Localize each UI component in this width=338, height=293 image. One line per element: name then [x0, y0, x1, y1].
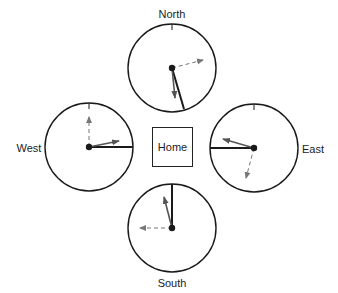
center-dot	[169, 225, 175, 231]
center-dot	[86, 144, 92, 150]
home-box: Home	[152, 127, 193, 167]
label-west: West	[17, 142, 42, 154]
clock-east	[210, 104, 298, 192]
center-dot	[169, 65, 175, 71]
home-label: Home	[158, 141, 187, 153]
clock-south	[128, 184, 216, 272]
clock-north	[128, 24, 216, 112]
label-north: North	[159, 8, 186, 20]
label-south: South	[158, 277, 187, 289]
clock-west	[45, 103, 133, 191]
label-east: East	[302, 143, 324, 155]
center-dot	[251, 145, 257, 151]
